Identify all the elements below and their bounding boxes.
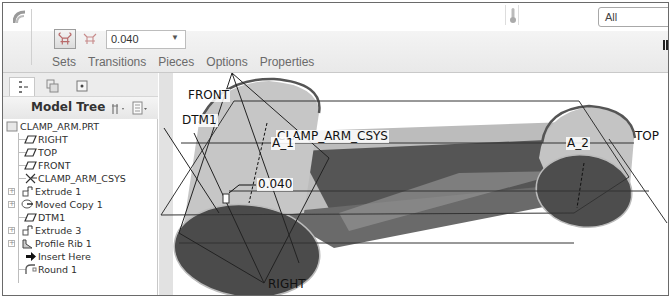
model-tree-icon [10, 78, 36, 97]
tab-options[interactable]: Options [206, 55, 247, 71]
datum-plane-icon [24, 147, 37, 158]
thermometer-icon[interactable] [505, 5, 519, 25]
insert-here-arrow-icon [24, 251, 37, 262]
set-tool-button-2[interactable] [81, 30, 99, 48]
tree-item-part[interactable]: CLAMP_ARM.PRT [6, 120, 99, 133]
filter-select[interactable]: All [598, 7, 669, 27]
model-tree-title: Model Tree [31, 100, 105, 114]
model-tree-header: Model Tree [3, 97, 158, 119]
set-tool-icon [55, 30, 75, 48]
expand-toggle[interactable]: + [8, 201, 15, 208]
show-menu-icon[interactable] [132, 101, 148, 116]
round-icon [24, 264, 37, 275]
set-tool-button[interactable] [54, 29, 76, 49]
tree-item-right[interactable]: RIGHT [24, 133, 68, 146]
tab-properties[interactable]: Properties [260, 55, 315, 71]
expand-toggle[interactable]: + [8, 240, 15, 247]
ribbon-tabs: Sets Transitions Pieces Options Properti… [52, 55, 326, 71]
tree-item-profile-rib-1[interactable]: Profile Rib 1 [21, 237, 92, 250]
tree-item-dtm1[interactable]: DTM1 [24, 211, 65, 224]
app-window: All 0.040 ▼ Sets Transitions Pieces Opti… [2, 2, 669, 296]
dimension-value-label[interactable]: 0.040 [257, 178, 293, 191]
tree-item-moved-copy-1[interactable]: Moved Copy 1 [21, 198, 103, 211]
extrude-icon [21, 225, 34, 236]
favorites-icon [69, 77, 95, 96]
ribbon: All 0.040 ▼ Sets Transitions Pieces Opti… [3, 3, 668, 73]
tree-line [18, 133, 19, 283]
expand-toggle[interactable]: + [8, 227, 15, 234]
tree-item-csys[interactable]: CLAMP_ARM_CSYS [24, 172, 126, 185]
axis-a1-label[interactable]: A_1 [271, 137, 295, 150]
clamp-arm-model[interactable] [159, 73, 668, 296]
chevron-down-icon: ▼ [171, 33, 179, 42]
datum-plane-icon [24, 160, 37, 171]
tree-item-top[interactable]: TOP [24, 146, 57, 159]
folder-browser-icon [39, 77, 65, 96]
datum-plane-icon [24, 134, 37, 145]
tab-pieces[interactable]: Pieces [158, 55, 194, 71]
part-icon [6, 121, 19, 132]
separator [31, 9, 32, 65]
tab-sets[interactable]: Sets [52, 55, 76, 71]
tree-item-extrude-3[interactable]: Extrude 3 [21, 224, 81, 237]
tab-folder-browser[interactable] [39, 77, 65, 96]
model-tree-panel: Model Tree CLAMP_ARM.PRT RIGHT TO [3, 73, 158, 296]
expand-toggle[interactable]: + [8, 188, 15, 195]
tab-transitions[interactable]: Transitions [88, 55, 146, 71]
set-tool-alt-icon [81, 30, 99, 48]
axis-a2-label[interactable]: A_2 [566, 137, 590, 150]
dtm1-plane-label[interactable]: DTM1 [181, 114, 218, 127]
front-plane-label[interactable]: FRONT [187, 89, 230, 102]
value-select[interactable]: 0.040 ▼ [106, 30, 186, 49]
profile-rib-icon [21, 238, 34, 249]
panel-tabs [3, 73, 158, 97]
value-select-text: 0.040 [111, 33, 139, 45]
tree-settings-icon[interactable] [110, 101, 126, 116]
datum-plane-icon [24, 212, 37, 223]
tree-item-insert-here[interactable]: Insert Here [24, 250, 91, 263]
graphics-viewport[interactable]: FRONT DTM1 CLAMP_ARM_CSYS A_1 0.040 A_2 … [159, 73, 668, 296]
tree-item-round-1[interactable]: Round 1 [24, 263, 77, 276]
moved-copy-icon [21, 199, 34, 210]
pause-icon[interactable] [663, 35, 669, 45]
extrude-icon [21, 186, 34, 197]
tree-item-front[interactable]: FRONT [24, 159, 70, 172]
tab-model-tree[interactable] [9, 77, 35, 96]
tab-favorites[interactable] [69, 77, 95, 96]
app-logo-icon [13, 10, 27, 24]
top-plane-label[interactable]: TOP [634, 130, 660, 143]
ribbon-top-bar [3, 3, 668, 31]
right-plane-label[interactable]: RIGHT [267, 278, 307, 291]
csys-icon [24, 173, 37, 184]
tree-item-extrude-1[interactable]: Extrude 1 [21, 185, 81, 198]
